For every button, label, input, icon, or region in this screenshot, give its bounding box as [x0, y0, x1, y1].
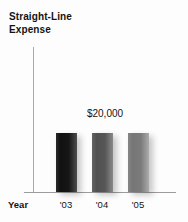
- bar-2005: [128, 133, 149, 192]
- bar-2003: [56, 133, 77, 192]
- value-annotation: $20,000: [62, 108, 148, 119]
- bar-2004: [92, 133, 113, 192]
- x-tick-label-2004: '04: [87, 199, 117, 210]
- x-axis-title: Year: [8, 199, 28, 210]
- x-tick-label-2005: '05: [123, 199, 153, 210]
- x-tick-label-2003: '03: [51, 199, 81, 210]
- chart-figure: Straight-Line Expense $20,000 Year '03 '…: [0, 0, 188, 222]
